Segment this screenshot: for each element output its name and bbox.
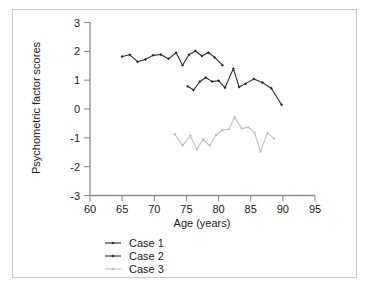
x-tick-label: 60 — [84, 203, 96, 215]
series-line — [188, 69, 282, 105]
legend-label: Case 1 — [129, 237, 164, 249]
chart-plot-area: 3210-1-2-3 Psychometric factor scores 60… — [0, 0, 369, 287]
legend-marker — [111, 241, 114, 244]
y-tick-label: 0 — [74, 103, 80, 115]
data-point — [259, 150, 262, 153]
series-1 — [121, 50, 224, 67]
legend-item-1[interactable]: Case 1 — [105, 237, 164, 249]
chart-legend: Case 1Case 2Case 3 — [105, 237, 164, 275]
series-3 — [173, 116, 275, 153]
x-tick-labels: 6065707580859095 — [84, 203, 321, 215]
legend-marker — [111, 267, 114, 270]
x-tick-label: 80 — [212, 203, 224, 215]
series-line — [122, 51, 222, 65]
x-tick-label: 90 — [277, 203, 289, 215]
x-tick-label: 85 — [245, 203, 257, 215]
y-tick-label: 1 — [74, 74, 80, 86]
x-tick-marks — [90, 196, 315, 202]
data-series-group — [121, 50, 283, 154]
y-tick-labels: 3210-1-2-3 — [70, 17, 80, 202]
x-tick-label: 65 — [116, 203, 128, 215]
legend-item-2[interactable]: Case 2 — [105, 250, 164, 262]
x-axis-title: Age (years) — [174, 217, 231, 229]
data-point — [121, 55, 124, 58]
y-tick-marks — [84, 23, 90, 196]
series-2 — [186, 67, 283, 106]
x-tick-label: 95 — [309, 203, 321, 215]
y-axis-title: Psychometric factor scores — [30, 41, 42, 174]
y-axis: 3210-1-2-3 Psychometric factor scores — [30, 17, 90, 202]
y-tick-label: 3 — [74, 17, 80, 29]
chart-figure: 3210-1-2-3 Psychometric factor scores 60… — [0, 0, 369, 287]
legend-label: Case 3 — [129, 263, 164, 275]
legend-item-3[interactable]: Case 3 — [105, 263, 164, 275]
x-axis: 6065707580859095 Age (years) — [84, 196, 321, 230]
y-tick-label: 2 — [74, 45, 80, 57]
x-tick-label: 75 — [180, 203, 192, 215]
x-tick-label: 70 — [148, 203, 160, 215]
series-line — [175, 117, 274, 151]
legend-label: Case 2 — [129, 250, 164, 262]
y-tick-label: -1 — [70, 132, 80, 144]
y-tick-label: -3 — [70, 190, 80, 202]
legend-marker — [111, 254, 114, 257]
y-tick-label: -2 — [70, 161, 80, 173]
